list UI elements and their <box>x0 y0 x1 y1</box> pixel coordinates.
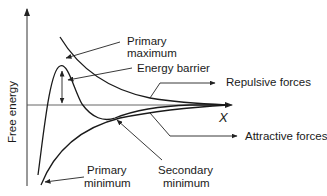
primary-minimum-label-1: Primary <box>87 164 127 176</box>
net-energy-curve <box>38 66 228 175</box>
primary-maximum-label-2: maximum <box>127 47 177 59</box>
secondary-minimum-label-2: minimum <box>163 177 210 189</box>
repulsive-forces-label: Repulsive forces <box>226 76 311 88</box>
primary-maximum-label-1: Primary <box>127 35 167 47</box>
primary-minimum-label-2: minimum <box>84 177 131 189</box>
y-axis-label: Free energy <box>6 81 18 143</box>
x-axis-label: X <box>218 110 229 125</box>
secondary-minimum-leader <box>117 120 162 160</box>
repulsive-forces-leader <box>150 83 215 98</box>
attractive-forces-label: Attractive forces <box>245 130 327 142</box>
energy-barrier-label: Energy barrier <box>137 62 210 74</box>
primary-minimum-leader <box>45 177 84 182</box>
secondary-minimum-label-1: Secondary <box>158 164 213 176</box>
primary-maximum-leader <box>66 42 120 58</box>
dlvo-diagram: Free energy X Primary maximum Energy bar… <box>0 0 327 196</box>
